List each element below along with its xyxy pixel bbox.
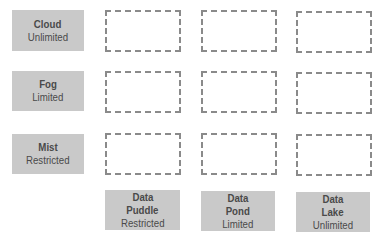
grid-cell-cloud-lake: [296, 11, 372, 53]
row-label-fog: Fog Limited: [12, 71, 84, 111]
row-label-line2: Restricted: [26, 154, 70, 167]
grid-cell-mist-lake: [296, 134, 372, 176]
grid-cell-fog-lake: [296, 72, 372, 114]
grid-cell-cloud-puddle: [105, 10, 181, 52]
column-label-line3: Restricted: [121, 217, 165, 230]
column-label-pond: Data Pond Limited: [201, 191, 275, 231]
row-label-line1: Cloud: [34, 18, 61, 31]
column-label-line2: Lake: [322, 206, 344, 219]
grid-cell-fog-pond: [201, 71, 277, 113]
grid-cell-cloud-pond: [201, 10, 277, 52]
column-label-line3: Unlimited: [313, 219, 353, 232]
column-label-puddle: Data Puddle Restricted: [105, 190, 180, 230]
column-label-line1: Data: [132, 191, 153, 204]
column-label-line1: Data: [228, 192, 249, 205]
row-label-cloud: Cloud Unlimited: [12, 10, 84, 51]
column-label-line2: Pond: [226, 205, 250, 218]
grid-cell-mist-puddle: [105, 133, 181, 175]
column-label-lake: Data Lake Unlimited: [296, 192, 370, 232]
row-label-mist: Mist Restricted: [12, 134, 84, 174]
column-label-line1: Data: [323, 193, 344, 206]
column-label-line3: Limited: [222, 218, 253, 231]
row-label-line2: Unlimited: [28, 31, 68, 44]
grid-cell-mist-pond: [201, 133, 277, 175]
grid-cell-fog-puddle: [105, 71, 181, 113]
row-label-line1: Fog: [39, 78, 57, 91]
column-label-line2: Puddle: [126, 204, 158, 217]
row-label-line1: Mist: [38, 141, 57, 154]
row-label-line2: Limited: [32, 91, 63, 104]
